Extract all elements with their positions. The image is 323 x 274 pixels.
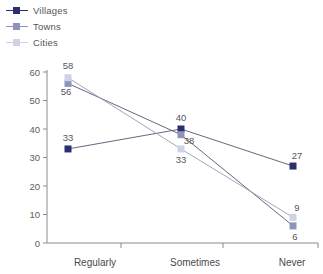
x-axis: RegularlySometimesNever (47, 243, 318, 268)
data-point-label: 38 (184, 135, 195, 146)
y-axis-tick-label: 10 (29, 209, 40, 220)
data-point-marker[interactable] (178, 145, 185, 152)
data-point-label: 58 (63, 60, 74, 71)
plot-area: 0102030405060 RegularlySometimesNever 33… (0, 0, 323, 274)
x-axis-category-label: Sometimes (170, 257, 220, 268)
data-point-marker[interactable] (290, 222, 297, 229)
data-point-marker[interactable] (65, 145, 72, 152)
data-point-label: 9 (294, 202, 299, 213)
x-axis-category-label: Never (279, 257, 306, 268)
data-point-marker[interactable] (290, 214, 297, 221)
data-point-marker[interactable] (290, 163, 297, 170)
y-axis-tick-label: 30 (29, 152, 40, 163)
series-layer (65, 74, 297, 229)
data-point-label: 40 (176, 112, 187, 123)
data-point-label: 6 (292, 231, 297, 242)
data-point-marker[interactable] (65, 74, 72, 81)
data-point-label: 27 (292, 150, 303, 161)
y-axis: 0102030405060 (29, 67, 47, 249)
data-point-label: 56 (61, 86, 72, 97)
y-axis-tick-label: 40 (29, 124, 40, 135)
x-axis-category-label: Regularly (74, 257, 116, 268)
y-axis-tick-label: 60 (29, 67, 40, 78)
y-axis-tick-label: 0 (35, 238, 40, 249)
line-chart: Villages Towns Cities 0102030405060 Regu… (0, 0, 323, 274)
data-point-label: 33 (176, 154, 187, 165)
data-point-label: 33 (63, 132, 74, 143)
y-axis-tick-label: 20 (29, 181, 40, 192)
y-axis-tick-label: 50 (29, 95, 40, 106)
